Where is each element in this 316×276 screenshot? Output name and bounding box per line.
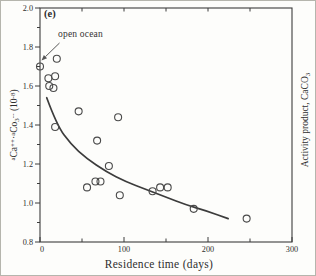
data-point	[84, 184, 91, 191]
fit-curve	[47, 98, 228, 219]
x-tick-label: 200	[202, 245, 214, 254]
data-point	[52, 73, 59, 80]
data-point	[50, 84, 57, 91]
x-tick-label: 0	[40, 245, 44, 254]
data-point	[52, 123, 59, 130]
plot-frame	[40, 8, 292, 242]
data-point	[164, 184, 171, 191]
open-ocean-annotation: open ocean	[58, 29, 103, 39]
y-tick-label: 0.8	[23, 238, 33, 247]
data-point	[243, 215, 250, 222]
y-axis-label: aCa++·aCo3-- (10-8)	[9, 60, 19, 190]
data-point	[116, 192, 123, 199]
data-point	[75, 108, 82, 115]
data-point	[105, 162, 112, 169]
y-tick-label: 1.6	[23, 82, 33, 91]
annotation-arrow-line	[45, 43, 59, 57]
y-tick-label: 1.2	[23, 160, 33, 169]
axis-label-fragment: 3	[304, 73, 312, 77]
data-point	[97, 178, 104, 185]
data-point	[94, 137, 101, 144]
axis-label-fragment: (10	[9, 98, 19, 113]
axis-label-fragment: )	[9, 89, 19, 92]
axis-label-fragment: Activity product, CaCO	[300, 76, 310, 167]
right-axis-label: Activity product, CaCO3	[300, 54, 310, 186]
axis-label-fragment: 3	[13, 118, 21, 122]
axis-label-fragment: ++	[9, 139, 17, 147]
x-tick-label: 100	[118, 245, 130, 254]
data-point	[46, 83, 53, 90]
data-point	[115, 114, 122, 121]
data-point	[45, 75, 52, 82]
scatter-plot-canvas: 2.01.81.61.41.21.00.80100200300	[1, 1, 316, 276]
axis-label-fragment: Co	[9, 122, 19, 133]
panel-label: (e)	[44, 8, 56, 19]
axis-label-fragment: -8	[9, 93, 17, 99]
data-point	[157, 184, 164, 191]
x-tick-label: 300	[286, 245, 298, 254]
y-tick-label: 1.8	[23, 43, 33, 52]
axis-label-fragment: Ca	[9, 147, 19, 158]
figure-panel: 2.01.81.61.41.21.00.80100200300 (e) open…	[0, 0, 316, 276]
axis-label-fragment: a	[9, 133, 17, 136]
axis-label-fragment: --	[9, 113, 17, 118]
y-tick-label: 1.0	[23, 199, 33, 208]
y-tick-label: 2.0	[23, 4, 33, 13]
axis-label-fragment: a	[9, 157, 17, 160]
x-axis-label: Residence time (days)	[1, 258, 316, 270]
axis-label-fragment: ·	[9, 136, 19, 139]
y-tick-label: 1.4	[23, 121, 33, 130]
data-point	[53, 55, 60, 62]
